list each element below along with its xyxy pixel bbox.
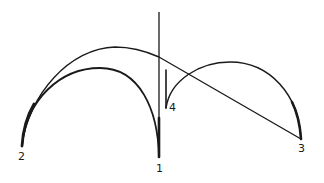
arch-diagram <box>0 0 324 183</box>
spring-2-thick <box>22 104 34 146</box>
outer-arc <box>22 47 301 146</box>
diagram-canvas: 2 1 3 4 <box>0 0 324 183</box>
label-point-4: 4 <box>169 102 176 113</box>
label-point-3: 3 <box>298 143 305 154</box>
spring-3-thick <box>292 102 301 139</box>
inner-left-arch <box>22 68 159 157</box>
label-point-1: 1 <box>156 163 163 174</box>
label-point-2: 2 <box>18 151 25 162</box>
